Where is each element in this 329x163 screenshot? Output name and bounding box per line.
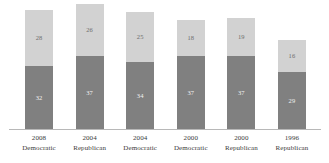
bar-value-bottom-4: 37 [238,90,245,97]
x-axis-labels: 2008 Democratic 2004 Republican 2004 Dem… [14,133,317,163]
bar-value-bottom-1: 37 [86,90,93,97]
bar-value-top-0: 28 [36,35,43,42]
bar-segment-bottom-3[interactable]: 37 [177,56,205,130]
bar-stack-2: 25 34 [126,12,154,130]
bar-value-top-2: 25 [137,34,144,41]
x-tick-year-1: 2004 [65,133,115,143]
bar-value-bottom-3: 37 [187,90,194,97]
bar-value-bottom-5: 29 [289,98,296,105]
bar-stack-3: 18 37 [177,20,205,130]
bar-segment-bottom-0[interactable]: 32 [25,66,53,130]
x-tick-party-1: Republican [65,143,115,153]
x-tick-year-0: 2008 [14,133,64,143]
bar-value-bottom-0: 32 [36,95,43,102]
bar-stack-1: 26 37 [76,4,104,130]
bars-container: 28 32 26 37 [14,0,317,130]
bar-stack-4: 19 37 [227,18,255,130]
bar-value-top-4: 19 [238,34,245,41]
bar-value-top-1: 26 [86,27,93,34]
bar-value-top-3: 18 [187,35,194,42]
bar-segment-top-0[interactable]: 28 [25,10,53,66]
x-tick-label-4: 2000 Republican [216,133,266,163]
bar-segment-top-1[interactable]: 26 [76,4,104,56]
x-tick-label-3: 2000 Democratic [166,133,216,163]
bar-group-4[interactable]: 19 37 [216,0,266,130]
x-tick-label-1: 2004 Republican [65,133,115,163]
stacked-bar-chart: 28 32 26 37 [0,0,329,163]
x-tick-party-4: Republican [216,143,266,153]
x-tick-party-0: Democratic [14,143,64,153]
bar-segment-bottom-1[interactable]: 37 [76,56,104,130]
bar-segment-bottom-4[interactable]: 37 [227,56,255,130]
x-tick-label-2: 2004 Democratic [115,133,165,163]
x-tick-year-2: 2004 [115,133,165,143]
x-tick-party-5: Republican [267,143,317,153]
bar-segment-bottom-2[interactable]: 34 [126,62,154,130]
bar-segment-bottom-5[interactable]: 29 [278,72,306,130]
bar-segment-top-2[interactable]: 25 [126,12,154,62]
x-tick-party-3: Democratic [166,143,216,153]
x-tick-label-0: 2008 Democratic [14,133,64,163]
bar-group-2[interactable]: 25 34 [115,0,165,130]
bar-value-top-5: 16 [289,53,296,60]
x-tick-party-2: Democratic [115,143,165,153]
x-tick-label-5: 1996 Republican [267,133,317,163]
bar-group-1[interactable]: 26 37 [65,0,115,130]
x-axis-line [9,129,321,130]
bar-group-5[interactable]: 16 29 [267,0,317,130]
bar-group-0[interactable]: 28 32 [14,0,64,130]
x-tick-year-3: 2000 [166,133,216,143]
plot-area: 28 32 26 37 [0,0,329,130]
bar-value-bottom-2: 34 [137,93,144,100]
bar-segment-top-4[interactable]: 19 [227,18,255,56]
bar-group-3[interactable]: 18 37 [166,0,216,130]
bar-stack-5: 16 29 [278,40,306,130]
x-tick-year-4: 2000 [216,133,266,143]
bar-stack-0: 28 32 [25,10,53,130]
bar-segment-top-5[interactable]: 16 [278,40,306,72]
x-tick-year-5: 1996 [267,133,317,143]
bar-segment-top-3[interactable]: 18 [177,20,205,56]
